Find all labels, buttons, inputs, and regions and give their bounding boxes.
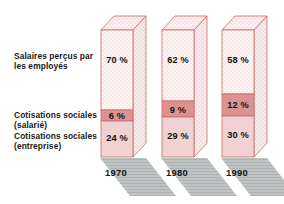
chart-canvas: 70 % 6 % 24 % 62 % 9 % 29 % 58 % 12 % 30… (0, 0, 284, 204)
bar-1970-value-salarie: 6 % (109, 111, 125, 121)
bar-1970-segment-salaries (101, 30, 133, 110)
x-axis-label-1980: 1980 (166, 167, 188, 178)
bar-1980-segment-salaries (162, 30, 194, 101)
bar-1980-value-entreprise: 29 % (167, 131, 189, 141)
bar-1980-side-face (194, 16, 207, 157)
bar-1990-side-face (254, 16, 267, 157)
bar-group-1990[interactable]: 58 % 12 % 30 % (222, 16, 267, 157)
bar-shadows (100, 158, 284, 196)
bar-1990-value-entreprise: 30 % (227, 130, 249, 140)
x-axis-labels: 1970 1980 1990 (105, 167, 248, 178)
x-axis-label-1970: 1970 (105, 167, 127, 178)
bar-group-1980[interactable]: 62 % 9 % 29 % (162, 16, 207, 157)
bar-1970-value-entreprise: 24 % (106, 133, 128, 143)
bar-group-1970[interactable]: 70 % 6 % 24 % (101, 16, 146, 157)
bar-1980-value-salaries: 62 % (167, 55, 189, 65)
stacked-bar-chart: 70 % 6 % 24 % 62 % 9 % 29 % 58 % 12 % 30… (0, 0, 284, 204)
bar-1980-value-salarie: 9 % (170, 105, 186, 115)
bar-1970-side-face (133, 16, 146, 157)
bar-1990-value-salarie: 12 % (227, 100, 249, 110)
bar-1970-value-salaries: 70 % (106, 55, 128, 65)
x-axis-label-1990: 1990 (226, 167, 248, 178)
bar-1990-value-salaries: 58 % (227, 55, 249, 65)
